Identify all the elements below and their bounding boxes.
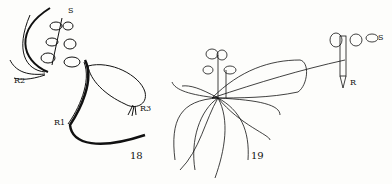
figure-18-label-shoot: S (68, 6, 73, 15)
figure-18-label-r2: R2 (14, 76, 25, 85)
figure-19-label-root: R (350, 78, 356, 87)
figure-19-drawing (172, 33, 378, 178)
figure-18-label-r1: R1 (54, 118, 65, 127)
figure-18-number: 18 (130, 150, 143, 161)
figure-19-number: 19 (251, 150, 264, 161)
figure-18-label-r3: R3 (140, 104, 151, 113)
botanical-illustration: S R2 R1 R3 18 S R 19 (0, 0, 392, 184)
figure-19-label-shoot: S (378, 33, 383, 42)
plant-drawings (0, 0, 392, 184)
figure-18-drawing (10, 8, 145, 144)
